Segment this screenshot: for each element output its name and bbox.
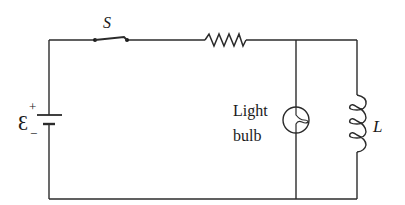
inductor-label: L xyxy=(372,117,382,136)
bulb-label-line2: bulb xyxy=(233,127,261,144)
switch-label: S xyxy=(103,14,111,31)
resistor-icon xyxy=(205,34,246,46)
inductor-icon xyxy=(350,95,366,152)
bulb-label-line1: Light xyxy=(233,102,268,120)
circuit-diagram: S Ɛ + − Light bulb L xyxy=(0,0,405,205)
switch-icon xyxy=(93,37,129,42)
plus-sign: + xyxy=(29,99,36,114)
minus-sign: − xyxy=(30,126,37,141)
emf-label: Ɛ xyxy=(18,112,28,134)
battery-icon xyxy=(37,115,62,124)
light-bulb-icon xyxy=(283,107,309,133)
